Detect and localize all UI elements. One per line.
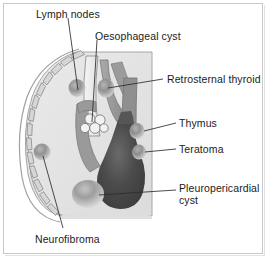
lesion-marker-thymus xyxy=(130,123,145,139)
label-retrosternal-thyroid: Retrosternal thyroid xyxy=(167,73,261,85)
lesion-marker-neurofibroma xyxy=(34,144,51,161)
label-neurofibroma: Neurofibroma xyxy=(35,233,100,245)
lesion-marker-teratoma xyxy=(132,145,146,160)
label-pleuropericardial-cyst: Pleuropericardial cyst xyxy=(179,182,257,206)
label-thymus: Thymus xyxy=(179,117,217,129)
lesion-marker-pleuropericardial-cyst xyxy=(72,180,104,208)
label-teratoma: Teratoma xyxy=(179,143,224,155)
mediastinal-mass-diagram: Lymph nodes Oesophageal cyst Retrosterna… xyxy=(0,0,271,260)
label-lymph-nodes: Lymph nodes xyxy=(36,8,100,20)
label-oesophageal-cyst: Oesophageal cyst xyxy=(95,30,181,42)
lesion-marker-retrosternal-thyroid xyxy=(98,79,115,98)
